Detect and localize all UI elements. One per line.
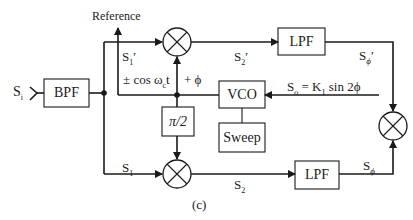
phase-shift-label: π/2 [162, 107, 194, 136]
block-diagram-canvas [0, 0, 413, 220]
vco-label: VCO [219, 81, 265, 108]
phase-phi-label: + ϕ [184, 73, 201, 86]
carrier-junction-dot [174, 92, 180, 98]
sweep-label: Sweep [219, 123, 265, 152]
s1-prime-label: S1′ [122, 50, 136, 67]
reference-label: Reference [92, 10, 141, 22]
s-phi-label: Sϕ [363, 159, 375, 176]
top-lpf-label: LPF [278, 28, 325, 55]
s2-label: S2 [234, 178, 245, 195]
so-equation-label: So = K1 sin 2ϕ [287, 80, 360, 97]
split-junction-dot [101, 90, 107, 96]
s2-prime-label: S2′ [234, 50, 248, 67]
bottom-lpf-label: LPF [295, 161, 339, 189]
s1-label: S1 [122, 161, 133, 178]
carrier-cos-label: ± cos ωct [123, 73, 170, 90]
input-signal-label: Si [13, 85, 23, 102]
input-chevron-icon [30, 87, 37, 100]
s-phi-prime-label: Sϕ′ [359, 49, 374, 66]
bpf-label: BPF [44, 79, 89, 107]
figure-caption: (c) [192, 198, 206, 211]
